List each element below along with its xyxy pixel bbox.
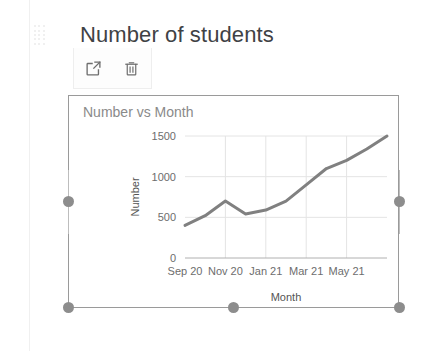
open-in-new-button[interactable] [74,49,113,88]
chart-block[interactable]: Number vs Month 050010001500Sep 20Nov 20… [68,95,399,308]
block-toolbar [73,48,152,89]
y-axis-tick-label: 1500 [152,130,176,142]
chart-title: Number vs Month [83,104,193,120]
resize-handle-right-middle[interactable] [394,196,405,207]
x-axis-title: Month [271,291,302,303]
x-axis-tick-label: May 21 [329,265,365,277]
x-axis-tick-label: Jan 21 [249,265,282,277]
trash-icon [123,60,140,77]
y-axis-tick-label: 1000 [152,171,176,183]
x-axis-tick-label: Sep 20 [168,265,203,277]
resize-handle-bottom-left[interactable] [63,302,74,313]
y-axis-tick-label: 500 [158,211,176,223]
delete-button[interactable] [113,49,152,88]
drag-dots-icon[interactable] [33,24,46,46]
x-axis-tick-label: Nov 20 [208,265,243,277]
y-axis-title: Number [129,177,141,216]
resize-handle-bottom-right[interactable] [394,302,405,313]
line-chart-svg: 050010001500Sep 20Nov 20Jan 21Mar 21May … [69,124,400,309]
data-series-line [185,136,387,225]
resize-handle-left-middle[interactable] [63,196,74,207]
x-axis-tick-label: Mar 21 [289,265,323,277]
resize-handle-bottom-center[interactable] [228,302,239,313]
document-column-rule [29,0,30,351]
open-in-new-icon [85,60,102,77]
page-title: Number of students [80,20,274,50]
chart-plot-area: 050010001500Sep 20Nov 20Jan 21Mar 21May … [69,124,400,309]
y-axis-tick-label: 0 [170,252,176,264]
